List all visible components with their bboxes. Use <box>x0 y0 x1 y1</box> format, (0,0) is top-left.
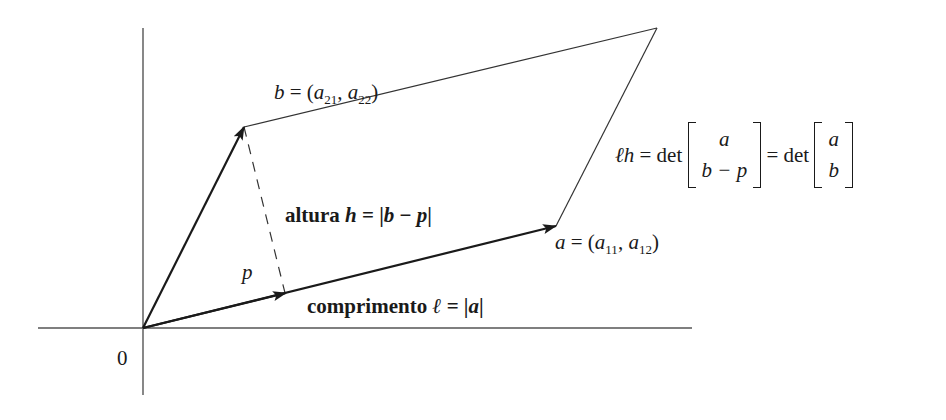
matrix-a-b-minus-p: ab − p <box>688 124 762 186</box>
vector-b-label: b = (a21, a22) <box>274 82 378 106</box>
vector-b-arrow <box>143 127 244 328</box>
edge-top <box>244 28 657 127</box>
projection-label: p <box>242 262 253 283</box>
vector-p-arrow <box>143 293 286 328</box>
determinant-formula: ℓh = det ab − p = det ab <box>615 124 853 186</box>
parallelogram-diagram <box>0 0 946 420</box>
height-label: altura h = |b − p| <box>285 205 432 226</box>
origin-label: 0 <box>117 348 128 369</box>
length-label: comprimento ℓ = |a| <box>307 296 484 317</box>
matrix-a-b: ab <box>814 124 853 186</box>
vector-a-label: a = (a11, a12) <box>555 232 659 256</box>
